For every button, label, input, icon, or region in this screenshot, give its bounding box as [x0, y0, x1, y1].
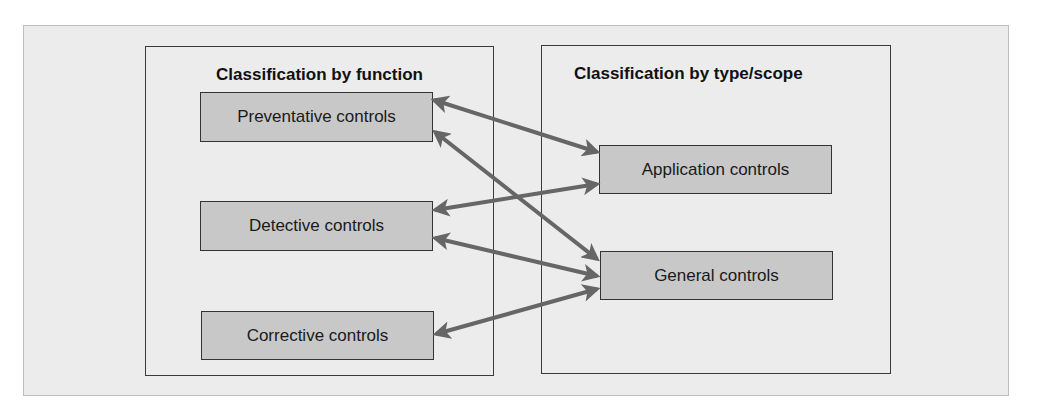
- group-title-function: Classification by function: [146, 65, 493, 85]
- node-preventative-controls: Preventative controls: [200, 92, 433, 142]
- node-general-controls: General controls: [600, 251, 833, 300]
- node-application-controls: Application controls: [599, 145, 832, 194]
- group-classification-by-type-scope: Classification by type/scope: [541, 45, 891, 374]
- group-title-type-scope: Classification by type/scope: [542, 64, 890, 84]
- node-corrective-controls: Corrective controls: [201, 311, 434, 360]
- node-detective-controls: Detective controls: [200, 201, 433, 251]
